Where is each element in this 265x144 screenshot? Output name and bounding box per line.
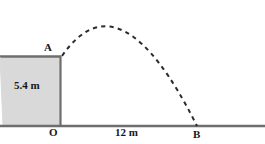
projectile-motion-figure: A 5.4 m O 12 m B xyxy=(0,0,265,144)
label-point-b: B xyxy=(193,129,200,140)
label-range-12-m: 12 m xyxy=(115,127,138,138)
label-point-a: A xyxy=(44,42,52,53)
ramp-shape xyxy=(0,57,60,125)
figure-canvas xyxy=(0,0,265,144)
trajectory-path xyxy=(62,26,197,126)
label-point-o: O xyxy=(49,127,58,138)
label-height-5-4-m: 5.4 m xyxy=(14,80,40,91)
